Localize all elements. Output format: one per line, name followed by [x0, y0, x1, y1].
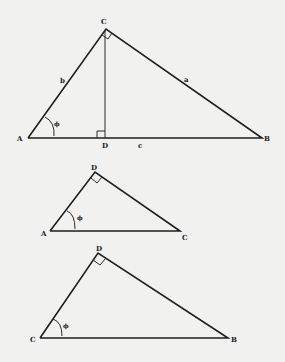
vertex-label-c: C [182, 233, 188, 242]
angle-label-phi: ϕ [77, 214, 83, 222]
vertex-label-d: D [102, 141, 108, 150]
angle-arc-a [67, 211, 75, 229]
right-angle-mark-d [91, 177, 102, 183]
side-label-a: a [184, 75, 189, 84]
vertex-label-b: B [231, 335, 237, 344]
vertex-label-c: C [30, 335, 36, 344]
figure-triangle-cdb: D C B ϕ [30, 244, 237, 344]
angle-label-phi: ϕ [54, 120, 60, 128]
triangle-adc-outline [50, 172, 180, 231]
vertex-label-a: A [40, 229, 47, 238]
angle-label-phi: ϕ [63, 322, 69, 330]
angle-arc-c [53, 319, 62, 336]
vertex-label-a: A [16, 134, 23, 143]
angle-arc-a [45, 117, 54, 136]
figure-triangle-abc: C b a A D c B ϕ [16, 17, 270, 150]
right-angle-mark-d [93, 258, 106, 265]
vertex-label-d: D [96, 244, 102, 253]
right-angle-mark-d [97, 131, 105, 138]
triangle-diagram: C b a A D c B ϕ D A C ϕ D C B ϕ [0, 0, 285, 362]
figure-triangle-adc: D A C ϕ [40, 163, 188, 242]
side-label-c: c [138, 141, 142, 150]
right-angle-mark-c [102, 33, 112, 39]
vertex-label-d: D [91, 163, 97, 172]
vertex-label-b: B [264, 134, 270, 143]
vertex-label-c: C [101, 17, 107, 26]
side-label-b: b [60, 76, 65, 85]
